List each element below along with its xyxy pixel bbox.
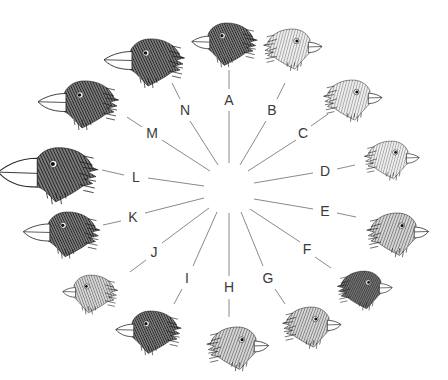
spoke-outer-i	[174, 289, 182, 304]
head-plumage	[367, 213, 416, 255]
feather-stroke	[267, 61, 275, 63]
spoke-outer-b	[277, 83, 285, 99]
spoke-outer-l	[102, 170, 124, 175]
finch-head-a	[192, 23, 258, 67]
head-plumage	[338, 271, 381, 309]
spoke-outer-c	[311, 114, 328, 126]
finch-head-d	[364, 141, 419, 180]
feather-stroke	[246, 362, 247, 367]
eye-icon	[394, 151, 397, 154]
eye-icon	[61, 224, 64, 227]
eye-icon	[51, 162, 55, 166]
spoke-outer-j	[130, 260, 146, 272]
feather-stroke	[320, 340, 321, 344]
feather-stroke	[217, 58, 218, 63]
feather-stroke	[327, 112, 335, 114]
spoke-label-m: M	[146, 125, 158, 141]
eye-icon	[367, 281, 370, 284]
finch-head-n	[104, 39, 185, 88]
eye-icon	[240, 338, 243, 341]
spoke-inner-k	[145, 198, 204, 213]
finch-head-e	[367, 213, 429, 257]
feather-stroke	[246, 56, 254, 58]
head-plumage	[324, 80, 370, 120]
eye-icon	[85, 285, 88, 288]
finch-head-j	[63, 275, 118, 314]
eye-icon	[144, 322, 147, 325]
feather-stroke	[82, 306, 83, 310]
spoke-outer-g	[275, 289, 285, 304]
spoke-inner-j	[162, 208, 209, 243]
feather-stroke	[301, 62, 302, 66]
spoke-label-a: A	[224, 92, 234, 108]
eye-icon	[355, 91, 358, 94]
spoke-inner-f	[250, 209, 300, 242]
finch-head-g	[282, 307, 341, 349]
finch-beak-radial-diagram: ABCDEFGHIJKLMN	[0, 0, 448, 380]
beak-icon	[406, 154, 419, 164]
eye-icon	[220, 34, 223, 37]
spoke-label-g: G	[263, 270, 274, 286]
feather-stroke	[370, 246, 378, 248]
feather-stroke	[367, 171, 374, 173]
birds-layer	[0, 23, 429, 371]
finch-head-c	[323, 80, 382, 122]
spoke-inner-i	[193, 212, 217, 266]
spoke-outer-e	[337, 213, 356, 217]
spoke-inner-n	[190, 121, 218, 165]
beak-icon	[308, 42, 322, 52]
head-plumage	[74, 275, 117, 313]
head-plumage	[35, 148, 97, 202]
beak-icon	[368, 93, 382, 103]
finch-head-f	[337, 271, 392, 310]
spoke-outer-k	[103, 221, 121, 225]
finch-head-l	[0, 148, 98, 204]
beak-icon	[192, 36, 210, 49]
beak-icon	[379, 284, 392, 294]
beak-icon	[414, 227, 428, 238]
feather-stroke	[399, 172, 400, 176]
eye-icon	[400, 224, 403, 227]
head-plumage	[208, 23, 257, 65]
finch-head-k	[23, 212, 100, 259]
feather-stroke	[361, 113, 362, 117]
spoke-outer-m	[127, 117, 142, 127]
feather-stroke	[286, 339, 294, 341]
head-plumage	[207, 327, 256, 369]
feather-stroke	[372, 302, 373, 306]
beak-icon	[116, 324, 134, 337]
spoke-label-e: E	[320, 203, 329, 219]
beak-icon	[327, 320, 341, 330]
spoke-inner-c	[248, 140, 296, 171]
spoke-label-n: N	[180, 102, 190, 118]
spoke-outer-d	[337, 165, 355, 169]
head-plumage	[283, 307, 329, 347]
spoke-inner-l	[148, 178, 204, 186]
spoke-inner-b	[240, 121, 266, 165]
spoke-label-b: B	[267, 102, 276, 118]
spoke-label-f: F	[303, 241, 312, 257]
feather-stroke	[83, 190, 93, 192]
head-plumage	[365, 141, 408, 179]
feather-stroke	[172, 76, 181, 78]
feather-stroke	[141, 346, 142, 351]
spoke-label-c: C	[298, 125, 308, 141]
finch-head-m	[38, 81, 119, 130]
eye-icon	[144, 51, 148, 55]
spoke-inner-d	[254, 173, 313, 183]
head-plumage	[130, 39, 184, 86]
feather-stroke	[406, 248, 407, 253]
spoke-inner-g	[241, 212, 263, 266]
beak-icon	[254, 341, 268, 352]
finch-head-b	[263, 29, 322, 71]
spoke-label-k: K	[128, 209, 138, 225]
head-plumage	[132, 311, 181, 353]
eye-icon	[295, 40, 298, 43]
finch-head-h	[207, 327, 269, 371]
finch-head-i	[116, 311, 182, 355]
feather-stroke	[108, 305, 115, 307]
head-plumage	[48, 212, 99, 257]
eye-icon	[78, 93, 82, 97]
feather-stroke	[170, 344, 178, 346]
spoke-label-l: L	[132, 169, 140, 185]
